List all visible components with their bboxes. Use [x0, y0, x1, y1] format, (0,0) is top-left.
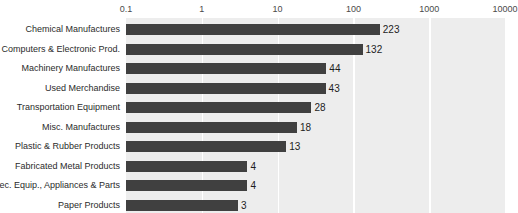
- bar-value-label: 3: [241, 200, 247, 211]
- bar: [126, 122, 297, 133]
- bar-value-label: 132: [366, 44, 383, 55]
- x-axis-tick-label: 0.1: [120, 4, 133, 14]
- category-label: Chemical Manufactures: [25, 24, 120, 34]
- bar-value-label: 43: [329, 83, 340, 94]
- x-axis-tick-label: 10000: [492, 4, 517, 14]
- bar: [126, 63, 326, 74]
- bar: [126, 180, 247, 191]
- bar-value-label: 28: [314, 102, 325, 113]
- gridline: [429, 18, 431, 213]
- x-axis-tick-label: 1000: [419, 4, 439, 14]
- bar-value-label: 223: [383, 24, 400, 35]
- bar: [126, 141, 286, 152]
- x-axis-tick-label: 1: [199, 4, 204, 14]
- category-label: Paper Products: [58, 200, 120, 210]
- category-label: Machinery Manufactures: [21, 63, 120, 73]
- bar: [126, 161, 247, 172]
- category-label: Plastic & Rubber Products: [15, 141, 120, 151]
- x-axis-tick-label: 100: [346, 4, 361, 14]
- bar-value-label: 44: [329, 63, 340, 74]
- category-label: Computers & Electronic Prod.: [1, 44, 120, 54]
- category-label: Used Merchandise: [45, 83, 120, 93]
- bar: [126, 83, 326, 94]
- bar: [126, 102, 311, 113]
- plot-area: 2231324443281813443: [126, 18, 505, 213]
- bar: [126, 44, 363, 55]
- bar-value-label: 4: [250, 180, 256, 191]
- x-axis: 0.1110100100010000: [0, 0, 514, 18]
- bar-value-label: 13: [289, 141, 300, 152]
- bar-value-label: 4: [250, 161, 256, 172]
- category-label: Transportation Equipment: [17, 102, 120, 112]
- category-label: Elec. Equip., Appliances & Parts: [0, 180, 120, 190]
- bar-value-label: 18: [300, 122, 311, 133]
- bar: [126, 24, 380, 35]
- bar: [126, 200, 238, 211]
- x-axis-tick-label: 10: [273, 4, 283, 14]
- y-axis-category-labels: Chemical ManufacturesComputers & Electro…: [0, 18, 124, 213]
- category-label: Misc. Manufactures: [42, 122, 120, 132]
- category-label: Fabricated Metal Products: [15, 161, 120, 171]
